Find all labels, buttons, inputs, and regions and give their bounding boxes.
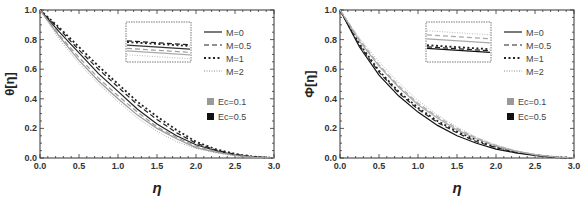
x-tick-label: 3.0 <box>568 161 581 171</box>
y-axis-label: θ[η] <box>2 72 17 96</box>
y-tick-label: 1.0 <box>324 5 337 15</box>
legend-label: Ec=0.1 <box>518 97 546 107</box>
legend-label: M=0 <box>526 28 544 38</box>
x-axis-label: η <box>152 179 161 196</box>
x-tick-label: 1.0 <box>112 161 125 171</box>
legend-label: M=2 <box>226 67 244 77</box>
y-tick-label: 0.8 <box>24 35 37 45</box>
legend-label: M=2 <box>526 67 544 77</box>
y-tick-label: 1.0 <box>24 5 37 15</box>
theta-chart: 0.00.51.01.52.02.53.00.00.20.40.60.81.0η… <box>0 0 292 201</box>
y-tick-label: 0.8 <box>324 35 337 45</box>
legend-label: M=0.5 <box>226 41 251 51</box>
legend-label: Ec=0.1 <box>218 97 246 107</box>
inset-zoom-box <box>126 22 191 62</box>
x-tick-label: 1.0 <box>412 161 425 171</box>
phi-chart-panel: 0.00.51.01.52.02.53.00.00.20.40.60.81.0η… <box>300 0 584 201</box>
legend-label: Ec=0.5 <box>518 112 546 122</box>
y-axis-label: Φ[η] <box>302 70 317 97</box>
y-tick-label: 0.4 <box>24 94 37 104</box>
y-tick-label: 0.0 <box>24 153 37 163</box>
legend-swatch <box>507 113 514 120</box>
legend-swatch <box>207 98 214 105</box>
y-tick-label: 0.6 <box>324 64 337 74</box>
x-tick-label: 1.5 <box>451 161 464 171</box>
y-tick-label: 0.4 <box>324 94 337 104</box>
legend-label: M=0.5 <box>526 41 551 51</box>
theta-chart-panel: 0.00.51.01.52.02.53.00.00.20.40.60.81.0η… <box>0 0 292 201</box>
x-tick-label: 2.5 <box>529 161 542 171</box>
x-tick-label: 2.0 <box>190 161 203 171</box>
y-tick-label: 0.2 <box>324 123 337 133</box>
x-tick-label: 3.0 <box>268 161 281 171</box>
y-tick-label: 0.6 <box>24 64 37 74</box>
y-tick-label: 0.2 <box>24 123 37 133</box>
legend-swatch <box>507 98 514 105</box>
legend-swatch <box>207 113 214 120</box>
legend-label: M=0 <box>226 28 244 38</box>
x-tick-label: 2.5 <box>229 161 242 171</box>
x-tick-label: 0.5 <box>73 161 86 171</box>
legend-label: Ec=0.5 <box>218 112 246 122</box>
legend-label: M=1 <box>226 54 244 64</box>
x-axis-label: η <box>452 179 461 196</box>
y-tick-label: 0.0 <box>324 153 337 163</box>
x-tick-label: 1.5 <box>151 161 164 171</box>
legend-label: M=1 <box>526 54 544 64</box>
x-tick-label: 2.0 <box>490 161 503 171</box>
phi-chart: 0.00.51.01.52.02.53.00.00.20.40.60.81.0η… <box>300 0 584 201</box>
x-tick-label: 0.5 <box>373 161 386 171</box>
